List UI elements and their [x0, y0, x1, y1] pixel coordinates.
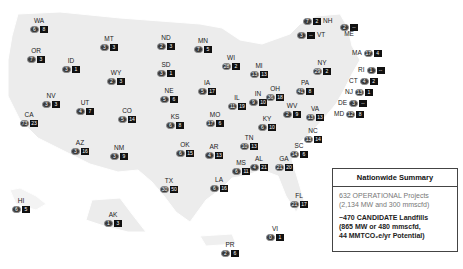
state-label: MA: [352, 50, 362, 57]
state-marker-ny: NY292: [313, 60, 331, 75]
candidate-count-badge: 14: [314, 136, 322, 143]
operational-count-badge: 73: [20, 120, 29, 127]
operational-count-badge: 13: [304, 136, 313, 143]
state-label: MT: [104, 36, 113, 43]
state-marker-ks: KS68: [166, 114, 184, 129]
badge-pair: 26: [221, 250, 239, 257]
state-marker-ut: UT47: [76, 100, 94, 115]
operational-count-badge: 3: [349, 100, 358, 107]
badge-pair: 42: [360, 78, 378, 85]
operational-count-badge: 6: [166, 122, 175, 129]
state-label: NJ: [345, 89, 353, 96]
state-label: HI: [18, 198, 25, 205]
badge-pair: 910: [249, 99, 267, 106]
state-marker-wi: WI282: [222, 55, 240, 70]
state-marker-ar: AR413: [205, 144, 223, 159]
candidate-count-badge: 8: [306, 88, 314, 95]
candidate-count-badge: 17: [300, 201, 308, 208]
state-label: SC: [294, 143, 303, 150]
state-label: IL: [234, 95, 239, 102]
state-label: DE: [338, 100, 347, 107]
operational-count-badge: 3: [100, 44, 109, 51]
state-label: AZ: [76, 140, 84, 147]
state-marker-wv: WV29: [283, 103, 301, 118]
state-marker-pa: PA418: [296, 80, 314, 95]
badge-pair: 146: [290, 151, 308, 158]
operational-count-badge: 5: [160, 96, 169, 103]
state-label: ID: [68, 58, 75, 65]
badge-pair: 128: [346, 111, 364, 118]
state-label: CT: [349, 78, 358, 85]
badge-pair: 316: [71, 148, 89, 155]
operational-count-badge: 13: [355, 89, 364, 96]
state-marker-or: OR73: [27, 48, 45, 63]
state-marker-vi: VI01: [266, 226, 284, 241]
state-marker-tx: TX3050: [160, 178, 178, 193]
operational-count-badge: 0: [266, 234, 275, 241]
badge-pair: 413: [205, 152, 223, 159]
state-marker-az: AZ316: [71, 140, 89, 155]
state-marker-mo: MO176: [206, 112, 224, 127]
operational-count-badge: 29: [313, 68, 322, 75]
state-marker-ri: RI1--: [358, 67, 385, 75]
candidate-count-badge: 13: [250, 143, 258, 150]
badge-pair: 1119: [228, 103, 246, 110]
operational-count-badge: 36: [266, 94, 275, 101]
state-marker-ms: MS611: [232, 160, 250, 175]
state-label: OR: [31, 48, 41, 55]
badge-pair: 514: [118, 116, 136, 123]
candidate-count-badge: 20: [285, 164, 293, 171]
state-label: SD: [161, 62, 170, 69]
badge-pair: 7323: [20, 120, 38, 127]
state-label: CO: [122, 108, 132, 115]
operational-count-badge: 7: [194, 46, 203, 53]
candidate-count-badge: 21: [260, 164, 268, 171]
badge-pair: 73: [27, 56, 45, 63]
candidate-count-badge: 1: [365, 89, 373, 96]
state-label: NH: [323, 18, 332, 25]
candidate-count-badge: 50: [170, 186, 178, 193]
state-marker-nj: NJ131: [345, 89, 373, 97]
candidate-count-badge: 6: [231, 250, 239, 257]
badge-pair: 1313: [250, 71, 268, 78]
candidate-count-badge: 13: [215, 152, 223, 159]
state-marker-nc: NC1314: [304, 128, 322, 143]
state-label: NV: [46, 93, 55, 100]
state-label: TN: [245, 135, 254, 142]
operational-count-badge: 21: [275, 164, 284, 171]
state-label: NY: [317, 60, 326, 67]
operational-count-badge: 3: [42, 101, 51, 108]
state-label: VA: [311, 106, 319, 113]
candidate-count-badge: 16: [81, 148, 89, 155]
badge-pair: 1013: [240, 143, 258, 150]
state-marker-fl: FL2117: [290, 193, 308, 208]
candidate-count-badge: 9: [120, 153, 128, 160]
badge-pair: 421: [250, 164, 268, 171]
state-marker-vt: 3--VT: [297, 32, 325, 40]
state-marker-co: CO514: [118, 108, 136, 123]
state-label: NC: [308, 128, 317, 135]
candidate-count-badge: 23: [30, 120, 38, 127]
state-label: VI: [272, 226, 278, 233]
badge-pair: 33: [100, 44, 118, 51]
state-marker-ca: CA7323: [20, 112, 38, 127]
badge-pair: 2120: [275, 164, 293, 171]
operational-count-badge: 17: [206, 120, 215, 127]
badge-pair: 615: [176, 150, 194, 157]
candidate-count-badge: 9: [293, 111, 301, 118]
state-label: ND: [161, 35, 170, 42]
badge-pair: 65: [12, 206, 30, 213]
state-marker-nm: NM39: [110, 145, 128, 160]
state-label: WV: [287, 103, 297, 110]
operational-count-badge: 13: [306, 114, 315, 121]
operational-count-badge: 13: [250, 71, 259, 78]
candidate-summary: ~470 CANDIDATE Landfills (865 MW or 480 …: [333, 209, 457, 240]
candidate-count-badge: 6: [170, 96, 178, 103]
state-marker-pr: PR26: [221, 242, 239, 257]
operational-count-badge: 3: [110, 153, 119, 160]
state-label: RI: [358, 67, 365, 74]
candidate-count-badge: 5: [22, 206, 30, 213]
operational-count-badge: 17: [364, 50, 373, 57]
state-marker-de: DE3--: [338, 100, 367, 108]
state-marker-ma: MA174: [352, 50, 382, 58]
